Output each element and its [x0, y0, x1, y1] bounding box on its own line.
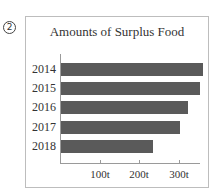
category-label: 2017: [26, 121, 56, 134]
bar-2014: [61, 63, 203, 76]
x-tick-mark: [100, 160, 101, 163]
bar-2015: [61, 82, 200, 95]
x-tick-label: 300t: [159, 168, 199, 180]
x-tick-label: 100t: [80, 168, 120, 180]
category-label: 2018: [26, 140, 56, 153]
x-tick-mark: [179, 160, 180, 163]
x-tick-mark: [139, 160, 140, 163]
category-label: 2014: [26, 63, 56, 76]
category-label: 2016: [26, 101, 56, 114]
figure-number-badge: 2: [3, 21, 16, 34]
bar-2017: [61, 121, 180, 134]
bar-2018: [61, 140, 153, 153]
x-tick-label: 200t: [119, 168, 159, 180]
x-axis-line: [60, 163, 200, 164]
chart-title: Amounts of Surplus Food: [25, 24, 209, 40]
category-label: 2015: [26, 82, 56, 95]
bar-2016: [61, 101, 188, 114]
